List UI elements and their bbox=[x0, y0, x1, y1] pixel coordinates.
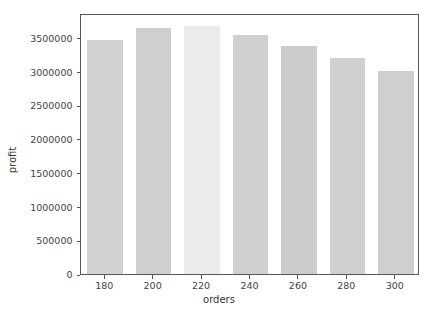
x-axis-tick: 220 bbox=[181, 275, 221, 290]
bar-chart-figure: profit 050000010000001500000200000025000… bbox=[0, 0, 438, 319]
x-axis-tick: 240 bbox=[230, 275, 270, 290]
bar bbox=[136, 28, 172, 274]
x-axis-tick-label: 240 bbox=[240, 281, 258, 291]
x-axis-tick-label: 260 bbox=[289, 281, 307, 291]
y-axis-tick-label: 2500000 bbox=[30, 101, 76, 111]
x-axis-tick-label: 300 bbox=[386, 281, 404, 291]
y-axis-tick-label: 1500000 bbox=[30, 169, 76, 179]
y-axis-tick-label: 3500000 bbox=[30, 34, 76, 44]
bar bbox=[330, 58, 366, 274]
x-axis-tick-label: 200 bbox=[144, 281, 162, 291]
x-axis-tick-mark bbox=[249, 275, 250, 279]
plot-area bbox=[80, 14, 419, 275]
x-axis-tick: 260 bbox=[278, 275, 318, 290]
x-axis-tick-mark bbox=[152, 275, 153, 279]
x-axis-title: orders bbox=[0, 295, 438, 305]
bar bbox=[184, 26, 220, 274]
x-axis-tick-mark bbox=[104, 275, 105, 279]
x-axis-tick-mark bbox=[394, 275, 395, 279]
y-axis-tick-label: 1000000 bbox=[30, 203, 76, 213]
y-axis-ticks: 0500000100000015000002000000250000030000… bbox=[0, 0, 80, 319]
bar bbox=[87, 40, 123, 274]
x-axis-tick-mark bbox=[346, 275, 347, 279]
bar bbox=[281, 46, 317, 274]
x-axis-tick-mark bbox=[201, 275, 202, 279]
x-axis-tick: 300 bbox=[375, 275, 415, 290]
y-axis-tick-label: 2000000 bbox=[30, 135, 76, 145]
bar bbox=[233, 35, 269, 274]
y-axis-tick-label: 3000000 bbox=[30, 68, 76, 78]
x-axis-tick: 200 bbox=[133, 275, 173, 290]
x-axis-tick: 180 bbox=[84, 275, 124, 290]
x-axis-tick-label: 220 bbox=[192, 281, 210, 291]
x-axis-tick-label: 180 bbox=[95, 281, 113, 291]
x-axis-tick-mark bbox=[297, 275, 298, 279]
bars-layer bbox=[81, 15, 418, 274]
bar bbox=[378, 71, 414, 274]
x-axis-tick: 280 bbox=[326, 275, 366, 290]
y-axis-tick-label: 500000 bbox=[36, 236, 76, 246]
x-axis-tick-label: 280 bbox=[337, 281, 355, 291]
